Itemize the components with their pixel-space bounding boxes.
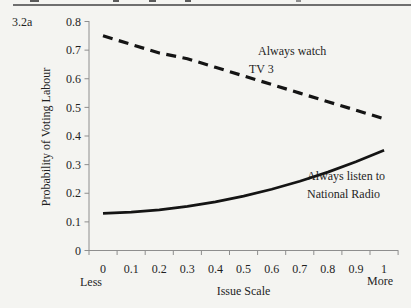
annotation-line: Always watch bbox=[249, 42, 326, 60]
line-chart: 00.10.20.30.40.50.60.70.800.10.20.30.40.… bbox=[0, 0, 411, 308]
x-tick-label: 0.2 bbox=[152, 262, 167, 276]
y-tick-label: 0.6 bbox=[66, 72, 81, 86]
annotation-line: National Radio bbox=[307, 185, 385, 203]
x-tick-label: 0.8 bbox=[320, 262, 335, 276]
annotation-line: TV 3 bbox=[249, 60, 326, 78]
annotation-line: Always listen to bbox=[307, 167, 385, 185]
y-tick-label: 0.5 bbox=[66, 101, 81, 115]
x-tick-label: 0.6 bbox=[264, 262, 279, 276]
y-tick-label: 0.4 bbox=[66, 129, 81, 143]
x-axis-left-caption: Less bbox=[80, 275, 102, 289]
x-axis-right-caption: More bbox=[367, 274, 393, 288]
x-tick-label: 0.4 bbox=[208, 262, 223, 276]
y-axis-title: Probability of Voting Labour bbox=[39, 68, 53, 207]
annotation-always-watch-tv3: Always watch TV 3 bbox=[249, 42, 326, 78]
y-tick-label: 0.7 bbox=[66, 43, 81, 57]
y-tick-label: 0.3 bbox=[66, 158, 81, 172]
y-tick-label: 0.8 bbox=[66, 15, 81, 29]
annotation-always-listen-national-radio: Always listen to National Radio bbox=[307, 167, 385, 203]
y-tick-label: 0 bbox=[75, 244, 81, 258]
x-tick-label: 0.3 bbox=[180, 262, 195, 276]
x-tick-label: 0.9 bbox=[348, 262, 363, 276]
x-tick-label: 0.1 bbox=[124, 262, 139, 276]
figure-page: 3.2a 00.10.20.30.40.50.60.70.800.10.20.3… bbox=[0, 0, 411, 308]
x-axis-title: Issue Scale bbox=[217, 284, 271, 298]
x-tick-label: 0.7 bbox=[292, 262, 307, 276]
series-dashed bbox=[103, 36, 384, 119]
x-tick-label: 0.5 bbox=[236, 262, 251, 276]
y-tick-label: 0.2 bbox=[66, 186, 81, 200]
y-tick-label: 0.1 bbox=[66, 215, 81, 229]
